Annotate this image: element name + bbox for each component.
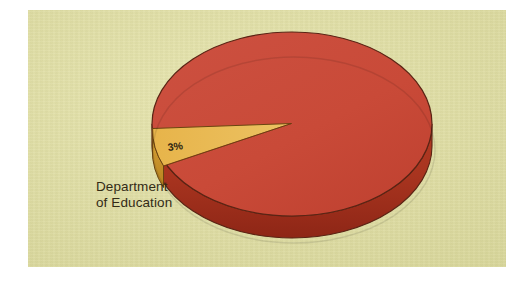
slice-percent-label: 3% [167,139,184,153]
slice-name-label: Department of Education [96,179,172,210]
pie-chart-graphic [0,0,526,284]
slice-name-line-1: Department [96,179,172,195]
pie-slice-major [152,32,432,216]
figure-canvas: 3% Department of Education [0,0,526,284]
slice-name-line-2: of Education [96,195,172,211]
